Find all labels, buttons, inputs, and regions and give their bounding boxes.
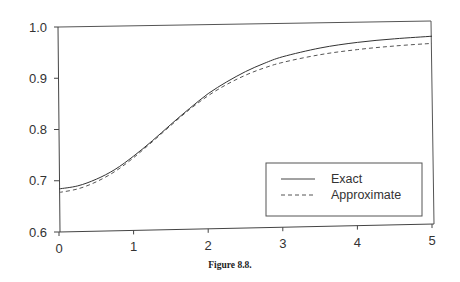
legend: Exact Approximate: [266, 163, 422, 216]
y-tick-label: 0.7: [29, 173, 47, 188]
x-tick-label: 4: [354, 235, 361, 250]
x-tick-label: 5: [428, 233, 435, 248]
x-axis: 012345: [55, 224, 435, 256]
frame-top: [59, 21, 431, 27]
frame-right: [431, 21, 434, 224]
y-axis: 0.60.70.80.91.0: [29, 20, 60, 240]
x-axis-line: [59, 224, 434, 232]
legend-label-approximate: Approximate: [331, 188, 401, 202]
x-tick-label: 2: [205, 238, 212, 253]
line-chart: 0.60.70.80.91.0 012345 Exact Approximate: [0, 0, 460, 282]
x-tick-label: 1: [130, 239, 137, 254]
y-tick-label: 0.8: [29, 122, 47, 137]
figure-caption: Figure 8.8.: [0, 260, 460, 270]
y-tick-label: 0.9: [29, 71, 47, 86]
x-tick-label: 3: [279, 236, 286, 251]
y-tick-label: 1.0: [29, 20, 47, 35]
x-tick-label: 0: [55, 241, 62, 256]
y-tick-label: 0.6: [29, 225, 47, 240]
legend-label-exact: Exact: [331, 172, 363, 186]
